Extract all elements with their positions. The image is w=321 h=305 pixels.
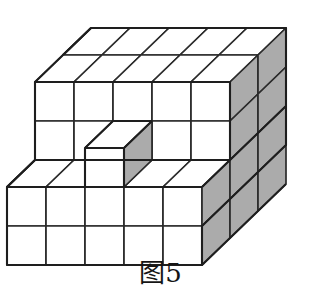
lower-front-face-grid (7, 187, 202, 265)
upper-front-cell-r0-c3 (152, 82, 191, 121)
protruding-cube-front (85, 148, 124, 187)
lower-front-cell-r0-c3 (124, 187, 163, 226)
figure-container: 图5 (0, 0, 321, 305)
upper-front-cell-r0-c1 (74, 82, 113, 121)
upper-front-cell-r1-c0 (35, 121, 74, 160)
figure-caption: 图5 (0, 258, 321, 288)
upper-front-cell-r0-c2 (113, 82, 152, 121)
upper-front-cell-r1-c4 (191, 121, 230, 160)
lower-front-cell-r0-c4 (163, 187, 202, 226)
upper-front-cell-r0-c0 (35, 82, 74, 121)
upper-front-cell-r1-c3 (152, 121, 191, 160)
lower-front-cell-r0-c0 (7, 187, 46, 226)
lower-front-cell-r0-c1 (46, 187, 85, 226)
upper-front-cell-r0-c4 (191, 82, 230, 121)
lower-front-cell-r0-c2 (85, 187, 124, 226)
